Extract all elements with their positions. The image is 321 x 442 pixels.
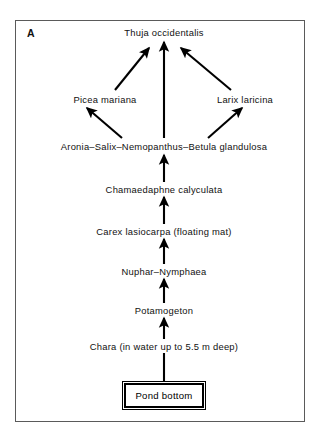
node-picea-mariana: Picea mariana (71, 94, 138, 105)
node-potamogeton: Potamogeton (133, 305, 196, 316)
node-chara: Chara (in water up to 5.5 m deep) (88, 341, 240, 352)
edge-larix-to-thuja (181, 48, 231, 90)
arrow-layer (0, 0, 321, 442)
node-nuphar-nymphaea: Nuphar–Nymphaea (119, 266, 208, 277)
node-pond-bottom-label: Pond bottom (135, 390, 192, 401)
panel-letter: A (27, 27, 35, 39)
node-aronia-salix-nemopanthus-betula-glandulosa: Aronia–Salix–Nemopanthus–Betula glandulo… (59, 141, 269, 152)
node-carex-lasiocarpa: Carex lasiocarpa (floating mat) (94, 226, 233, 237)
node-thuja-occidentalis: Thuja occidentalis (122, 27, 206, 38)
node-chamaedaphne-calyculata: Chamaedaphne calyculata (104, 184, 225, 195)
edge-aronia-to-picea (87, 108, 122, 138)
edge-picea-to-thuja (115, 48, 149, 90)
edge-aronia-to-larix (208, 108, 242, 138)
succession-diagram-figure: A Thuja occidentalis Picea mariana Larix… (0, 0, 321, 442)
node-pond-bottom-box: Pond bottom (124, 383, 204, 408)
node-larix-laricina: Larix laricina (215, 94, 275, 105)
